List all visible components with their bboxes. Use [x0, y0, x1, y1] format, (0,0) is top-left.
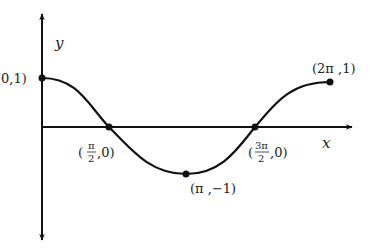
- label-pi-neg1: (π ,−1): [190, 181, 236, 196]
- label-3pi2-close: ,0): [270, 145, 287, 160]
- label-pi2-close: ,0): [97, 145, 114, 160]
- point-pi2-0: [106, 124, 113, 131]
- label-3pi2-den: 2: [258, 153, 264, 164]
- label-pi2-num: π: [88, 140, 95, 151]
- label-pi2-den: 2: [88, 153, 94, 164]
- point-2pi-1: [327, 79, 334, 86]
- label-0-1: (0,1): [0, 71, 27, 86]
- point-3pi2-0: [252, 124, 259, 131]
- label-pi2-open: (: [78, 145, 83, 160]
- y-axis-label: y: [54, 34, 64, 52]
- label-3pi2-open: (: [248, 145, 253, 160]
- point-0-1: [39, 75, 46, 82]
- label-3pi2-num: 3π: [255, 140, 268, 151]
- label-2pi-1: (2π ,1): [312, 61, 356, 76]
- point-pi-neg1: [183, 171, 190, 178]
- x-axis-label: x: [322, 134, 331, 152]
- cosine-graph: y x (0,1) ( π 2 ,0) (π ,−1) ( 3π 2 ,0) (…: [0, 0, 374, 250]
